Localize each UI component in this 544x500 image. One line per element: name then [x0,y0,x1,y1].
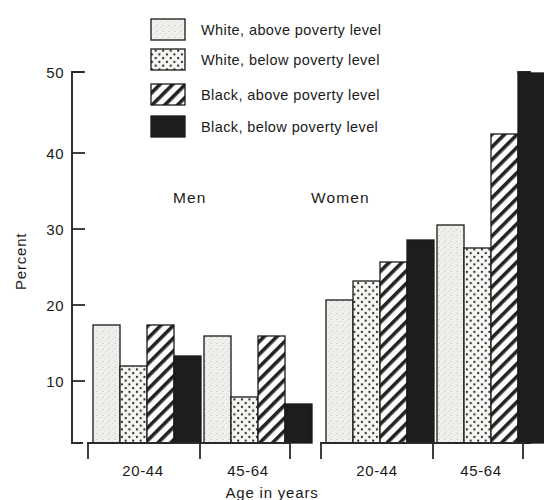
legend-item-white-above: White, above poverty level [151,19,381,40]
bar-men-45-64-white-above [204,336,231,443]
legend-item-black-below: Black, below poverty level [151,116,378,137]
legend-label-black-below: Black, below poverty level [201,119,378,135]
y-tick-label-40: 40 [46,145,64,162]
x-axis-title: Age in years [226,484,319,500]
x-axis-men: 20-44 45-64 [88,443,290,479]
bar-men-45-64-black-above [258,336,285,443]
bar-men-20-44-black-below [174,356,201,443]
bar-women-20-44-white-above [326,300,353,443]
y-tick-label-20: 20 [46,297,64,314]
bar-women-45-64-black-below [518,73,544,443]
bar-men-45-64-black-below [285,404,312,443]
bar-women-20-44-white-below [353,281,380,443]
y-axis: 50 40 30 20 10 Percent [12,64,85,443]
x-cat-label-men-20-44: 20-44 [122,462,163,479]
bar-men-45-64-white-below [231,397,258,443]
panel-title-men: Men [173,189,206,206]
bar-women-20-44-black-above [380,262,407,443]
x-cat-label-women-20-44: 20-44 [356,462,397,479]
y-axis-title: Percent [12,233,29,290]
bar-men-20-44-white-above [93,325,120,443]
x-axis-women: 20-44 45-64 [321,443,523,479]
bar-women-20-44-black-below [407,240,434,443]
bar-women-45-64-white-above [437,225,464,443]
legend-item-white-below: White, below poverty level [151,49,380,70]
bar-women-45-64-black-above [491,134,518,443]
bars-women-45-64 [437,73,544,443]
y-tick-label-50: 50 [46,64,64,81]
y-axis-spine [72,72,82,443]
panel-title-women: Women [311,189,370,206]
bar-men-20-44-white-below [120,366,147,443]
legend-swatch-black-below [151,116,185,137]
legend: White, above poverty level White, below … [151,19,381,137]
bars-men-20-44 [93,325,201,443]
legend-swatch-black-above [151,84,185,105]
x-cat-label-men-45-64: 45-64 [227,462,268,479]
legend-swatch-white-above [151,19,185,40]
bar-men-20-44-black-above [147,325,174,443]
y-tick-label-10: 10 [46,373,64,390]
bars-women-20-44 [326,240,434,443]
legend-label-black-above: Black, above poverty level [201,87,380,103]
bar-women-45-64-white-below [464,248,491,443]
legend-label-white-below: White, below poverty level [201,52,380,68]
legend-item-black-above: Black, above poverty level [151,84,380,105]
legend-swatch-white-below [151,49,185,70]
bar-chart: White, above poverty level White, below … [0,0,544,500]
y-tick-label-30: 30 [46,221,64,238]
bars-men-45-64 [204,336,312,443]
legend-label-white-above: White, above poverty level [201,22,381,38]
x-cat-label-women-45-64: 45-64 [460,462,501,479]
